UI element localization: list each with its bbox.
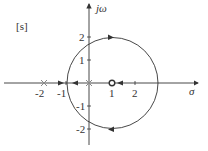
y-tick-label: 1 (79, 54, 85, 66)
arrow-top-icon (108, 35, 114, 41)
y-tick-label: -1 (76, 100, 85, 112)
zero-icon (109, 80, 115, 86)
x-tick-label: 1 (109, 87, 115, 99)
x-tick-label: -1 (57, 87, 66, 99)
y-tick-label: 2 (79, 31, 85, 43)
x-tick-label: 2 (132, 87, 138, 99)
root-locus-diagram: [s] jω σ -2 -1 1 2 2 1 -1 -2 (0, 0, 208, 151)
plane-label: [s] (16, 20, 28, 32)
arrow-breakaway-icon (72, 81, 78, 86)
real-axis-label: σ (189, 85, 195, 97)
arrow-bottom-icon (108, 127, 114, 133)
arrow-left-segment-icon (58, 81, 64, 86)
arrow-zero-icon (117, 81, 123, 86)
x-tick-label: -2 (35, 87, 44, 99)
imag-axis-label: jω (94, 2, 107, 14)
y-tick-label: -2 (76, 123, 85, 135)
